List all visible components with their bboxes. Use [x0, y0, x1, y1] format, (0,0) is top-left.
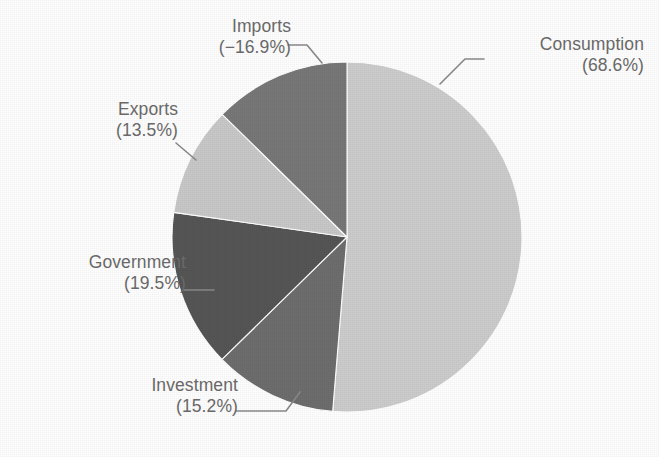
- callout-exports: Exports (13.5%): [52, 99, 178, 141]
- callout-investment-value: (15.2%): [72, 396, 238, 417]
- leader-line-exports: [176, 143, 196, 160]
- callout-investment-label: Investment: [72, 375, 238, 396]
- callout-government-value: (19.5%): [14, 273, 186, 294]
- callout-exports-value: (13.5%): [52, 120, 178, 141]
- callout-exports-label: Exports: [52, 99, 178, 120]
- callout-imports-label: Imports: [155, 16, 291, 37]
- pie-chart-figure: Imports (−16.9%) Consumption (68.6%) Exp…: [0, 0, 659, 457]
- callout-consumption-value: (68.6%): [486, 55, 644, 76]
- leader-line-consumption: [440, 59, 484, 84]
- callout-consumption: Consumption (68.6%): [486, 34, 644, 76]
- callout-imports: Imports (−16.9%): [155, 16, 291, 58]
- pie-slices-group: [172, 62, 522, 412]
- callout-imports-value: (−16.9%): [155, 37, 291, 58]
- leader-line-imports: [288, 45, 322, 63]
- callout-investment: Investment (15.2%): [72, 375, 238, 417]
- callout-government: Government (19.5%): [14, 252, 186, 294]
- callout-government-label: Government: [14, 252, 186, 273]
- callout-consumption-label: Consumption: [486, 34, 644, 55]
- pie-slice-consumption: [333, 62, 522, 412]
